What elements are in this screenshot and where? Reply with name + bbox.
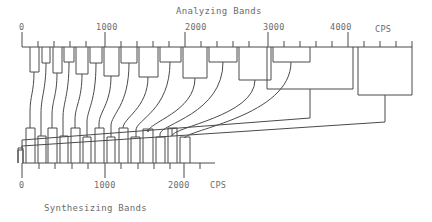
- figure-canvas: Analyzing Bands 0 1000 2000 3000 4000 CP…: [0, 0, 432, 222]
- band-mapping-diagram: [0, 0, 432, 222]
- analyzing-axis-minor-ticks: [38, 41, 396, 47]
- synthesizing-band-cells: [18, 128, 190, 163]
- synthesizing-axis-minor-ticks: [39, 163, 200, 169]
- analyzing-band-cells: [30, 47, 412, 95]
- analyzing-axis-major-ticks: [22, 32, 348, 47]
- analyzing-axis: [22, 32, 412, 47]
- synthesizing-axis-major-ticks: [22, 163, 184, 178]
- band-connectors: [22, 62, 385, 150]
- synthesizing-axis: [22, 163, 215, 178]
